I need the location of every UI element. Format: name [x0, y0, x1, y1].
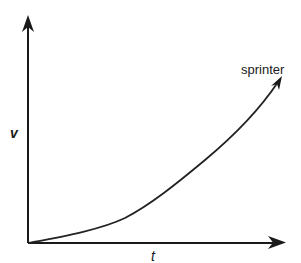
y-axis-label: v	[10, 125, 19, 141]
sprinter-curve	[28, 82, 278, 243]
series-label-sprinter: sprinter	[241, 62, 285, 77]
x-axis-label: t	[151, 248, 156, 263]
sprinter-curve-arrow-icon	[271, 76, 282, 90]
velocity-time-chart: v t sprinter	[0, 0, 301, 263]
